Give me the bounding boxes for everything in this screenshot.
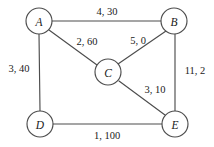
node-b: B [161, 8, 187, 34]
edge-a-d [39, 34, 40, 111]
node-label-b: B [170, 16, 177, 28]
graph-canvas: 4, 302, 605, 03, 4011, 23, 101, 100 ABCD… [0, 0, 214, 147]
edge-label-a-d: 3, 40 [9, 63, 30, 74]
edge-label-a-b: 4, 30 [97, 6, 118, 17]
edge-label-a-c: 2, 60 [77, 36, 98, 47]
node-c: C [95, 59, 121, 85]
edge-label-d-e: 1, 100 [94, 130, 120, 141]
graph-diagram: 4, 302, 605, 03, 4011, 23, 101, 100 ABCD… [0, 0, 214, 147]
edge-label-b-e: 11, 2 [185, 65, 206, 76]
node-label-c: C [104, 67, 112, 79]
node-label-a: A [34, 16, 43, 28]
edge-label-c-e: 3, 10 [145, 84, 166, 95]
node-label-d: D [35, 119, 45, 131]
edge-label-c-b: 5, 0 [130, 35, 146, 46]
node-a: A [26, 8, 52, 34]
node-e: E [162, 111, 188, 137]
nodes-layer: ABCDE [26, 8, 188, 137]
node-label-e: E [170, 119, 178, 131]
node-d: D [27, 111, 53, 137]
